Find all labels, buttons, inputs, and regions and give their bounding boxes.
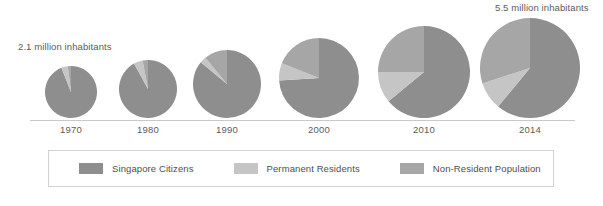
pie-2000 <box>277 36 361 120</box>
chart-canvas: 2.1 million inhabitants 5.5 million inha… <box>0 0 603 206</box>
pie-1980 <box>117 58 179 120</box>
pie-1990 <box>191 48 263 120</box>
pie-2014 <box>478 16 582 120</box>
pie-2010 <box>376 24 472 120</box>
legend-item-citizens[interactable]: Singapore Citizens <box>79 163 194 174</box>
legend-items: Singapore CitizensPermanent ResidentsNon… <box>49 151 553 186</box>
legend-label-permanent_residents: Permanent Residents <box>267 163 360 174</box>
legend-item-non_residents[interactable]: Non-Resident Population <box>400 163 541 174</box>
axis-tick-2014: 2014 <box>500 124 560 135</box>
legend-item-permanent_residents[interactable]: Permanent Residents <box>234 163 360 174</box>
pie-series <box>0 0 603 125</box>
axis-tick-2000: 2000 <box>289 124 349 135</box>
axis-tick-1990: 1990 <box>197 124 257 135</box>
axis-tick-1970: 1970 <box>41 124 101 135</box>
axis-line <box>30 120 575 121</box>
legend: Singapore CitizensPermanent ResidentsNon… <box>48 150 554 187</box>
pie-slice <box>378 26 424 72</box>
legend-swatch-permanent_residents <box>234 163 258 174</box>
pie-1970 <box>43 64 99 120</box>
legend-swatch-citizens <box>79 163 103 174</box>
axis-tick-1980: 1980 <box>118 124 178 135</box>
legend-swatch-non_residents <box>400 163 424 174</box>
axis-tick-2010: 2010 <box>394 124 454 135</box>
legend-label-citizens: Singapore Citizens <box>112 163 194 174</box>
legend-label-non_residents: Non-Resident Population <box>433 163 541 174</box>
